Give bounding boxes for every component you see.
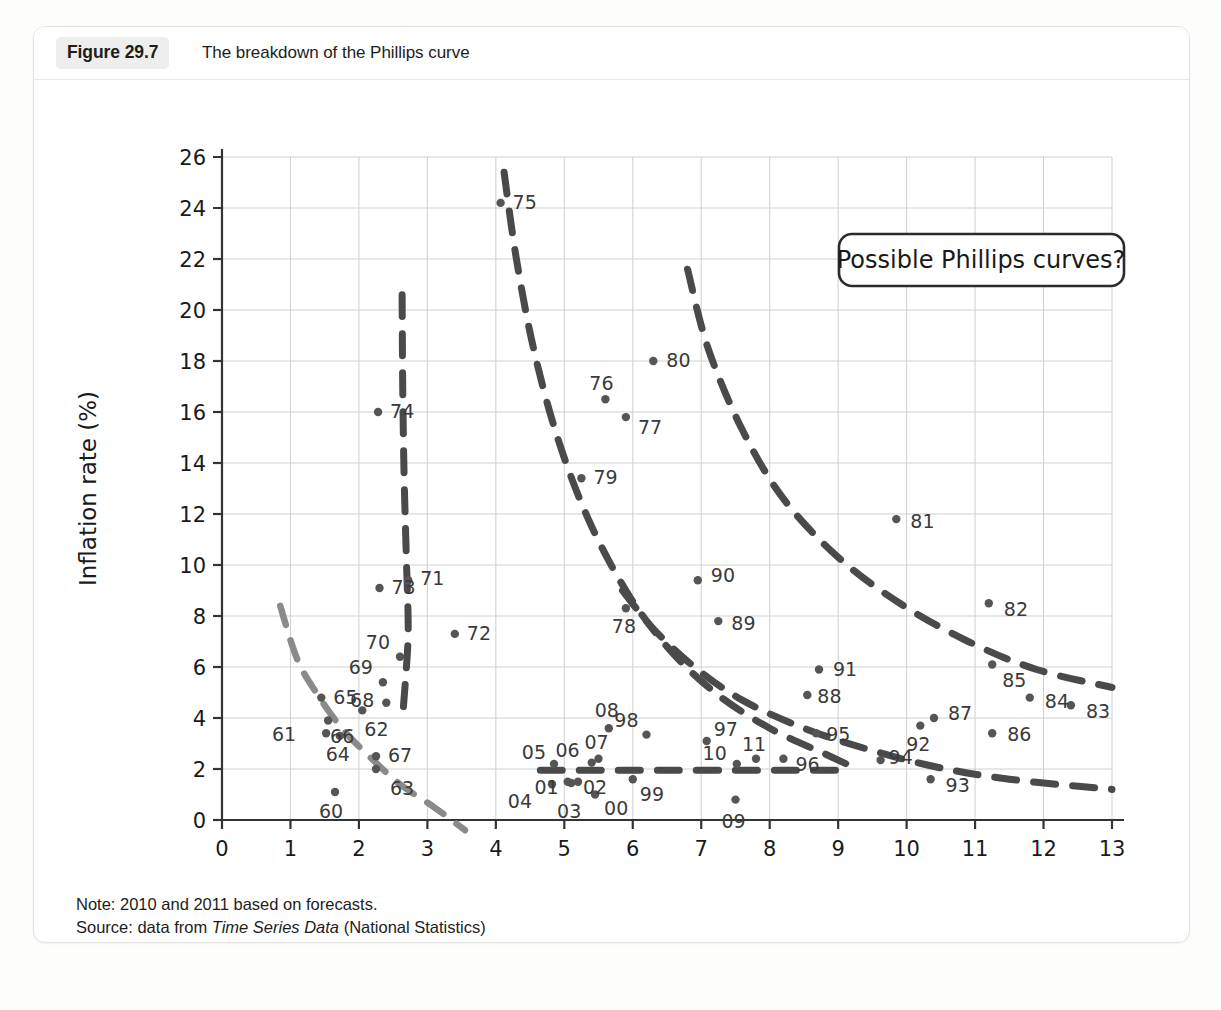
data-point-65 [317, 693, 325, 701]
data-point-89 [714, 617, 722, 625]
x-tick-labels: 012345678910111213 [215, 837, 1125, 861]
data-point-92 [916, 721, 924, 729]
x-tick-8: 8 [763, 837, 776, 861]
legend-annotation-box: Possible Phillips curves? [837, 234, 1125, 286]
data-point-label-90: 90 [711, 564, 735, 586]
data-point-76 [601, 395, 609, 403]
data-point-label-09: 09 [721, 810, 745, 832]
data-point-label-88: 88 [817, 685, 841, 707]
data-point-label-05: 05 [522, 741, 546, 763]
figure-title: The breakdown of the Phillips curve [202, 43, 470, 63]
data-point-10 [733, 760, 741, 768]
legend-label: Possible Phillips curves? [837, 246, 1125, 274]
source-suffix: (National Statistics) [339, 918, 486, 936]
data-point-label-06: 06 [556, 739, 580, 761]
y-tick-20: 20 [179, 299, 206, 323]
y-tick-24: 24 [179, 197, 206, 221]
figure-number-badge: Figure 29.7 [56, 37, 169, 69]
y-tick-labels: 02468101214161820222426 [179, 146, 206, 833]
data-point-61 [322, 729, 330, 737]
data-point-label-73: 73 [392, 576, 416, 598]
data-point-label-77: 77 [638, 416, 662, 438]
curve-1975-1979 [504, 172, 852, 766]
data-point-label-89: 89 [731, 612, 755, 634]
x-tick-10: 10 [893, 837, 920, 861]
data-point-label-68: 68 [350, 689, 374, 711]
x-tick-13: 13 [1099, 837, 1126, 861]
data-point-label-81: 81 [910, 510, 934, 532]
source-line: Source: data from Time Series Data (Nati… [76, 916, 976, 939]
data-point-label-82: 82 [1004, 598, 1028, 620]
data-point-91 [815, 665, 823, 673]
data-point-label-80: 80 [666, 349, 690, 371]
data-point-96 [779, 755, 787, 763]
page-root: Figure 29.7 The breakdown of the Phillip… [0, 0, 1221, 1010]
data-point-label-97: 97 [714, 718, 738, 740]
data-point-07 [594, 755, 602, 763]
data-point-label-87: 87 [948, 702, 972, 724]
y-axis-title: Inflation rate (%) [75, 391, 101, 586]
data-point-70 [396, 653, 404, 661]
data-point-label-70: 70 [366, 631, 390, 653]
data-point-68 [382, 699, 390, 707]
data-point-label-76: 76 [589, 372, 613, 394]
data-point-11 [752, 755, 760, 763]
data-point-label-08: 08 [595, 699, 619, 721]
data-point-93 [926, 775, 934, 783]
data-point-label-02: 02 [583, 776, 607, 798]
phillips-curve-scatter: 012345678910111213 024681012141618202224… [34, 79, 1189, 879]
x-tick-12: 12 [1030, 837, 1057, 861]
data-point-label-85: 85 [1002, 669, 1026, 691]
data-point-label-93: 93 [946, 774, 970, 796]
y-tick-6: 6 [193, 656, 206, 680]
figure-card: Figure 29.7 The breakdown of the Phillip… [33, 26, 1190, 943]
data-point-85 [988, 660, 996, 668]
data-point-82 [985, 599, 993, 607]
data-point-09 [731, 795, 739, 803]
source-prefix: Source: data from [76, 918, 212, 936]
y-tick-18: 18 [179, 350, 206, 374]
figure-notes: Note: 2010 and 2011 based on forecasts. … [76, 893, 976, 940]
data-point-79 [577, 474, 585, 482]
y-tick-0: 0 [193, 809, 206, 833]
data-point-label-03: 03 [557, 800, 581, 822]
data-point-86 [988, 729, 996, 737]
data-point-label-67: 67 [388, 744, 412, 766]
data-point-label-04: 04 [508, 790, 532, 812]
data-point-95 [812, 729, 820, 737]
figure-header: Figure 29.7 The breakdown of the Phillip… [34, 27, 1189, 80]
data-point-label-72: 72 [467, 622, 491, 644]
data-point-75 [496, 199, 504, 207]
data-point-77 [622, 413, 630, 421]
data-point-label-11: 11 [742, 733, 766, 755]
x-tick-6: 6 [626, 837, 639, 861]
data-point-label-95: 95 [826, 723, 850, 745]
data-point-60 [331, 788, 339, 796]
chart-area: 012345678910111213 024681012141618202224… [34, 79, 1189, 879]
data-point-66 [324, 716, 332, 724]
data-point-74 [374, 408, 382, 416]
note-text: Note: 2010 and 2011 based on forecasts. [76, 895, 378, 913]
x-tick-4: 4 [489, 837, 502, 861]
data-point-78 [622, 604, 630, 612]
data-point-63 [372, 765, 380, 773]
y-tick-26: 26 [179, 146, 206, 170]
x-tick-1: 1 [284, 837, 297, 861]
data-point-label-63: 63 [390, 777, 414, 799]
data-point-94 [876, 756, 884, 764]
x-tick-5: 5 [558, 837, 571, 861]
y-tick-4: 4 [193, 707, 206, 731]
x-axis-title: Unemployment rate (%) [528, 877, 806, 879]
data-point-label-74: 74 [390, 400, 414, 422]
data-point-67 [372, 752, 380, 760]
data-point-73 [375, 584, 383, 592]
data-point-05 [550, 760, 558, 768]
y-tick-10: 10 [179, 554, 206, 578]
data-point-label-78: 78 [612, 615, 636, 637]
data-point-98 [642, 730, 650, 738]
data-point-label-86: 86 [1007, 723, 1031, 745]
source-publication: Time Series Data [212, 918, 339, 936]
data-point-label-71: 71 [420, 567, 444, 589]
data-point-label-84: 84 [1045, 690, 1069, 712]
data-point-label-00: 00 [604, 797, 628, 819]
